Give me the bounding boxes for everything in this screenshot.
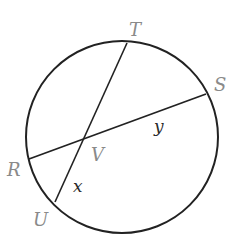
point-label-s: S <box>214 74 226 95</box>
circle-chords-diagram: T S R U V x y <box>0 0 238 241</box>
segment-label-y: y <box>153 116 164 136</box>
diagram-canvas: T S R U V x y <box>0 0 238 241</box>
point-label-v: V <box>91 144 106 165</box>
chord-tu <box>55 43 127 202</box>
segment-label-x: x <box>73 176 83 196</box>
point-label-r: R <box>6 159 21 180</box>
circle <box>26 41 218 233</box>
point-label-t: T <box>129 19 143 40</box>
point-label-u: U <box>33 209 49 230</box>
chord-rs <box>29 94 206 159</box>
